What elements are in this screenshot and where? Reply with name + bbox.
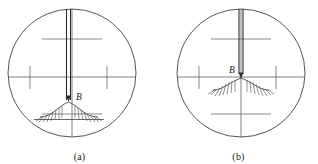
figure-reticle-views: B (a) (0, 0, 318, 164)
caption-b: (b) (159, 151, 318, 162)
reticle-diagram-b: B (159, 0, 318, 164)
point-label-b: B (229, 65, 235, 75)
caption-a: (a) (0, 151, 159, 162)
point-label-b: B (76, 92, 82, 102)
panel-a: B (a) (0, 0, 159, 164)
panel-b: B (b) (159, 0, 318, 164)
reticle-diagram-a: B (0, 0, 159, 164)
mound-outline (40, 102, 98, 117)
